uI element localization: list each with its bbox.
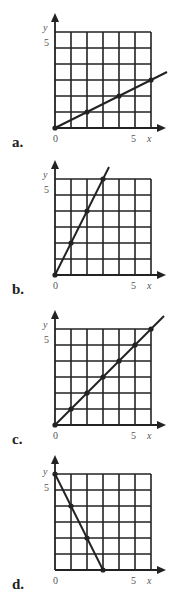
y-axis-label: y: [43, 22, 47, 33]
grid: [55, 474, 151, 570]
x-axis-label: x: [147, 133, 151, 144]
x-tick-5: 5: [131, 280, 136, 291]
x-axis-label: x: [147, 430, 151, 441]
x-axis-arrow-icon: [157, 271, 166, 279]
graph-label: b.: [12, 281, 24, 298]
graph-b-plot: [0, 147, 189, 297]
graph-a: y 5 0 5 x a.: [0, 0, 189, 150]
graph-d-plot: [0, 442, 189, 592]
x-tick-5: 5: [131, 430, 136, 441]
graph-label: d.: [12, 576, 24, 593]
x-tick-0: 0: [53, 575, 58, 586]
x-axis-label: x: [147, 280, 151, 291]
x-axis-arrow-icon: [157, 566, 166, 574]
y-tick-5: 5: [44, 334, 49, 345]
graph-a-plot: [0, 0, 189, 150]
y-axis-label: y: [43, 319, 47, 330]
graph-c: y 5 0 5 x c.: [0, 297, 189, 447]
y-axis-label: y: [43, 466, 47, 477]
graph-d: y 5 0 5 x d.: [0, 442, 189, 592]
grid: [55, 32, 151, 128]
graph-c-plot: [0, 297, 189, 447]
x-tick-0: 0: [53, 280, 58, 291]
y-axis-arrow-icon: [51, 160, 59, 169]
y-axis-label: y: [43, 169, 47, 180]
grid: [55, 179, 151, 275]
graph-b: y 5 0 5 x b.: [0, 147, 189, 297]
x-tick-5: 5: [131, 133, 136, 144]
y-axis-arrow-icon: [51, 455, 59, 464]
y-tick-5: 5: [44, 184, 49, 195]
x-tick-5: 5: [131, 575, 136, 586]
x-axis-arrow-icon: [157, 421, 166, 429]
y-axis-arrow-icon: [51, 310, 59, 319]
y-tick-5: 5: [44, 482, 49, 493]
x-tick-0: 0: [53, 430, 58, 441]
x-axis-arrow-icon: [157, 124, 166, 132]
x-axis-label: x: [147, 575, 151, 586]
x-tick-0: 0: [53, 133, 58, 144]
y-axis-arrow-icon: [51, 13, 59, 22]
y-tick-5: 5: [44, 37, 49, 48]
